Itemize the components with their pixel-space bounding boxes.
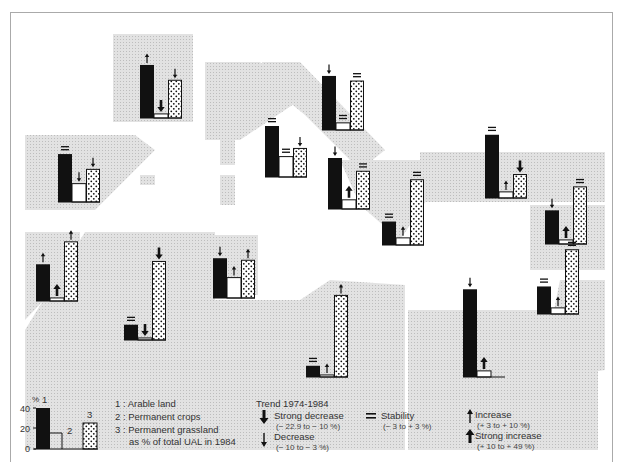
decrease-icon [468,278,472,288]
decrease-icon [298,137,302,147]
crops-bar [227,278,241,298]
legend-decrease-range: (− 10 to − 3 %) [276,442,329,454]
legend-pct-label: % [32,394,39,406]
crops-bar [336,123,350,130]
grassland-bar [411,180,424,245]
stability-icon [366,413,376,420]
crops-bar [499,192,513,198]
legend-bar-1-label: 1 [42,394,47,406]
grassland-bar [153,261,166,340]
legend-item-grassland-note: as % of total UAL in 1984 [129,436,236,448]
crops-bar [72,184,86,202]
legend-trend-title: Trend 1974-1984 [256,398,329,410]
grassland-bar [335,295,348,377]
arable-bar [213,258,227,298]
strong-increase-icon [345,186,352,198]
legend-item-grassland: 3 : Permanent grassland [115,424,219,436]
stability-icon [540,278,548,282]
arable-bar [545,210,559,244]
legend-item-arable: 1 : Arable land [115,398,176,410]
grassland-bar [65,242,78,301]
arable-bar [306,366,320,377]
grassland-bar [351,81,364,130]
crops-bar [477,371,491,377]
grassland-bar [357,171,370,209]
legend-item-crops: 2 : Permanent crops [115,411,201,423]
bar-group [265,118,307,177]
land-masses [25,34,605,450]
increase-icon [466,409,474,423]
grassland-bar [566,250,579,314]
decrease-icon [327,64,331,74]
strong-decrease-icon [259,410,269,424]
grassland-bar [87,169,100,202]
arable-bar [36,264,50,301]
grassland-bar [294,148,307,177]
legend-strong-increase-range: (+ 10 to + 49 %) [477,441,534,453]
strong-increase-icon [465,429,475,443]
crops-bar [279,157,293,177]
stability-icon [282,149,290,153]
legend-tick-20: 20 [20,423,30,435]
crops-bar [396,238,410,245]
grassland-bar [514,175,527,198]
arable-bar [328,158,342,209]
grassland-bar [242,260,255,298]
arable-bar [537,286,551,314]
arable-bar [265,126,279,177]
legend-tick-40: 40 [20,403,30,415]
arable-bar [58,154,72,202]
arable-bar [463,289,477,377]
crops-bar [551,308,565,314]
arable-bar [485,135,499,198]
decrease-icon [260,433,268,447]
legend-bar-3-label: 3 [87,409,92,421]
stability-icon [488,127,496,131]
legend-stability-range: (− 3 to + 3 %) [383,421,431,433]
grassland-bar [574,187,587,244]
arable-bar [140,65,154,118]
legend-tick-0: 0 [25,443,30,455]
stability-icon [353,73,361,77]
arable-bar [382,222,396,245]
decrease-icon [333,147,337,157]
legend-bar-2-label: 2 [67,425,72,437]
arable-bar [124,325,138,340]
grassland-bar [169,80,182,118]
crops-bar [154,114,168,118]
arable-bar [322,76,336,130]
crops-bar [342,200,356,209]
